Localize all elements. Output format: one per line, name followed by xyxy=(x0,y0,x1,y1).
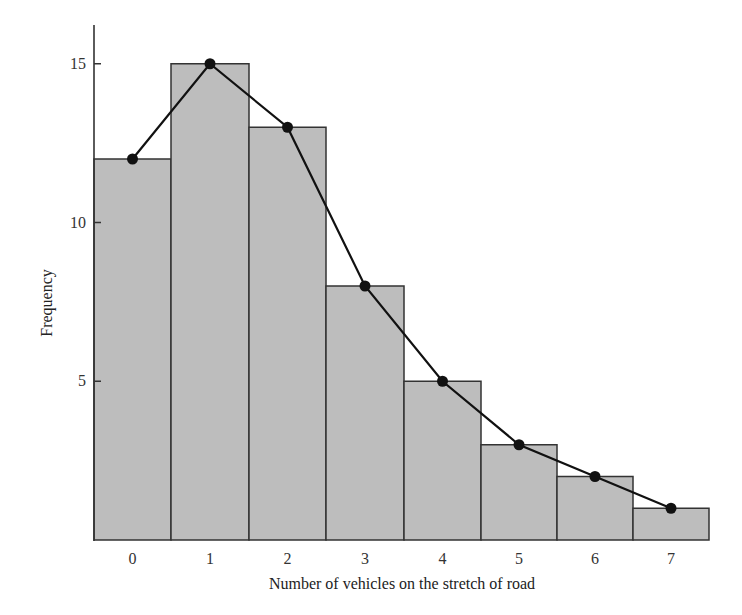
polygon-point xyxy=(437,376,448,387)
histogram-bar-2 xyxy=(249,127,326,540)
histogram-bar-4 xyxy=(404,381,481,540)
y-tick-label: 5 xyxy=(78,372,86,389)
polygon-point xyxy=(360,281,371,292)
polygon-point xyxy=(127,154,138,165)
histogram-bars xyxy=(94,64,709,540)
x-tick-label: 3 xyxy=(361,550,369,567)
y-tick-label: 15 xyxy=(70,55,86,72)
histogram-bar-0 xyxy=(94,159,171,540)
polygon-point xyxy=(590,471,601,482)
x-tick-label: 4 xyxy=(439,550,447,567)
histogram-bar-5 xyxy=(481,445,557,540)
x-tick-label: 5 xyxy=(515,550,523,567)
x-tick-label: 2 xyxy=(284,550,292,567)
polygon-point xyxy=(514,439,525,450)
histogram-bar-6 xyxy=(557,477,633,541)
y-axis-title: Frequency xyxy=(38,269,56,337)
histogram-bar-1 xyxy=(171,64,249,540)
histogram-chart: 51015 01234567 Number of vehicles on the… xyxy=(0,0,742,615)
polygon-point xyxy=(282,122,293,133)
polygon-point xyxy=(666,503,677,514)
y-tick-label: 10 xyxy=(70,214,86,231)
x-tick-label: 1 xyxy=(206,550,214,567)
histogram-bar-3 xyxy=(326,286,404,540)
x-tick-label: 7 xyxy=(667,550,675,567)
polygon-point xyxy=(205,58,216,69)
x-tick-label: 6 xyxy=(591,550,599,567)
x-axis-title: Number of vehicles on the stretch of roa… xyxy=(269,575,535,592)
x-tick-labels: 01234567 xyxy=(129,550,676,567)
x-tick-label: 0 xyxy=(129,550,137,567)
